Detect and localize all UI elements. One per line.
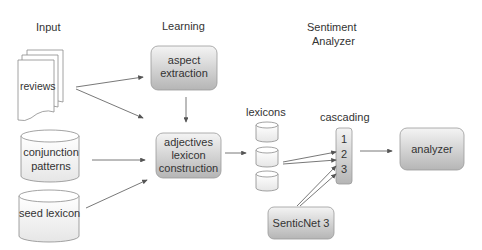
lexicon-cylinder-icon-2	[256, 147, 278, 167]
column-header-sentiment-line2: Analyzer	[312, 35, 355, 48]
reviews-label: reviews	[20, 80, 56, 93]
column-header-learning: Learning	[162, 20, 205, 33]
seed-lexicon-label: seed lexicon	[19, 207, 79, 220]
conjunction-patterns-label-line2: patterns	[22, 160, 80, 173]
aspect-extraction-label-line1: aspect	[151, 54, 217, 67]
analyzer-label: analyzer	[400, 143, 464, 156]
lexicons-label: lexicons	[246, 106, 286, 119]
conjunction-patterns-label-line1: conjunction	[22, 146, 80, 159]
adjectives-label-line2: lexicon	[156, 149, 221, 162]
adjectives-label-line1: adjectives	[156, 136, 221, 149]
cascade-item-2: 2	[336, 148, 352, 161]
aspect-extraction-label-line2: extraction	[151, 67, 217, 80]
senticnet-label: SenticNet 3	[268, 217, 334, 230]
cascade-item-1: 1	[336, 133, 352, 146]
cascading-label: cascading	[320, 111, 370, 124]
lexicon-cylinder-icon-1	[256, 122, 278, 142]
lexicon-cylinder-icon-3	[256, 171, 278, 191]
column-header-sentiment-line1: Sentiment	[307, 21, 357, 34]
cascade-item-3: 3	[336, 163, 352, 176]
adjectives-label-line3: construction	[156, 162, 221, 175]
column-header-input: Input	[36, 21, 60, 34]
